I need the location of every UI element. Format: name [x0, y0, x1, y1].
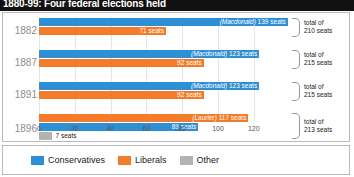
bar-value-label: (Macdonald) 123 seats — [191, 50, 257, 58]
bar-liberals: 71 seats — [39, 27, 166, 35]
chart-row: 1887(Macdonald) 123 seats92 seatstotal o… — [3, 50, 349, 80]
bar-value-label: 71 seats — [140, 27, 165, 35]
bar-liberals: (Laurier) 117 seats — [39, 114, 248, 122]
legend-item-conservatives: Conservatives — [31, 155, 105, 165]
x-axis-tick: 80 — [178, 125, 186, 132]
x-axis-tick: 0 — [37, 125, 41, 132]
chart-panel: 1882(Macdonald) 139 seats71 seatstotal o… — [2, 12, 350, 142]
legend-item-liberals: Liberals — [118, 155, 167, 165]
bar-value-label: (Macdonald) 123 seats — [191, 82, 257, 90]
total-label-line2: 215 seats — [304, 91, 332, 99]
bar-value-label: (Laurier) 117 seats — [192, 114, 246, 122]
total-label-line2: 215 seats — [304, 59, 332, 67]
bar-conservatives: (Macdonald) 123 seats — [39, 82, 259, 90]
row-year-label: 1891 — [5, 89, 37, 100]
bar-value-label: 92 seats — [177, 91, 202, 99]
bar-value-label: (Macdonald) 139 seats — [220, 18, 286, 26]
total-label-line2: 210 seats — [304, 27, 332, 35]
bar-conservatives: (Macdonald) 123 seats — [39, 50, 259, 58]
bar-leader-label: (Macdonald) — [220, 18, 258, 25]
bar-conservatives: (Macdonald) 139 seats — [39, 18, 288, 26]
legend: ConservativesLiberalsOther — [2, 145, 350, 175]
bar-value-label: 92 seats — [177, 59, 202, 67]
figure-header: 1880-99: Four federal elections held — [0, 0, 354, 11]
total-brace — [292, 18, 300, 37]
legend-swatch-liberals — [118, 156, 131, 165]
total-brace — [292, 50, 300, 69]
chart-row: 1882(Macdonald) 139 seats71 seatstotal o… — [3, 18, 349, 48]
legend-label-other: Other — [197, 155, 220, 165]
total-label-line1: total of — [304, 83, 324, 91]
legend-swatch-conservatives — [31, 156, 44, 165]
bar-leader-label: (Macdonald) — [191, 50, 229, 57]
x-axis: 020406080100120 — [3, 125, 349, 137]
legend-label-conservatives: Conservatives — [48, 155, 105, 165]
chart-row: 1891(Macdonald) 123 seats92 seatstotal o… — [3, 82, 349, 112]
bar-liberals: 92 seats — [39, 91, 204, 99]
x-axis-tick: 60 — [142, 125, 150, 132]
page-title: 1880-99: Four federal elections held — [3, 0, 166, 9]
bar-leader-label: (Laurier) — [192, 114, 218, 121]
x-axis-tick: 40 — [107, 125, 115, 132]
total-label-line1: total of — [304, 51, 324, 59]
total-brace — [292, 82, 300, 101]
bar-leader-label: (Macdonald) — [191, 82, 229, 89]
chart-figure: 1880-99: Four federal elections held 188… — [0, 0, 354, 177]
legend-swatch-other — [180, 156, 193, 165]
x-axis-tick: 20 — [71, 125, 79, 132]
x-axis-tick: 100 — [212, 125, 224, 132]
total-label-line1: total of — [304, 19, 324, 27]
x-axis-tick: 120 — [248, 125, 260, 132]
bar-liberals: 92 seats — [39, 59, 204, 67]
legend-item-other: Other — [180, 155, 220, 165]
plot-area: 1882(Macdonald) 139 seats71 seatstotal o… — [3, 13, 349, 141]
row-year-label: 1882 — [5, 25, 37, 36]
row-year-label: 1887 — [5, 57, 37, 68]
legend-label-liberals: Liberals — [135, 155, 167, 165]
